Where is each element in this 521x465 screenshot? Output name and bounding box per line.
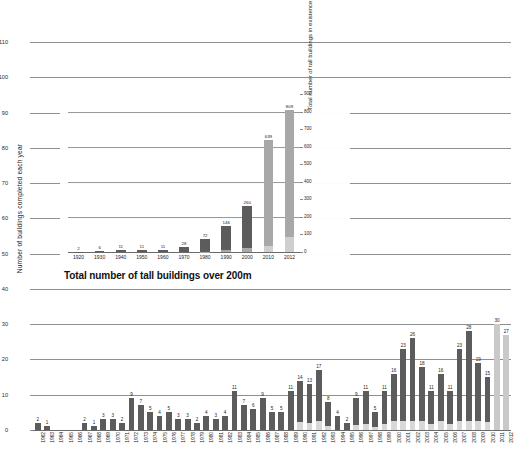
x-axis-tick-label: 2004 — [433, 432, 439, 443]
y-axis-tick-label: 50 — [0, 251, 8, 257]
bar[interactable] — [391, 374, 397, 430]
bar-segment-completed — [147, 412, 153, 430]
bar[interactable] — [241, 405, 247, 430]
inset-bar[interactable] — [95, 251, 105, 252]
bar-value-label: 11 — [429, 385, 434, 390]
main-x-axis-labels: 1962196319641965196619671968196919701971… — [33, 432, 511, 465]
bar-segment-base — [466, 421, 472, 430]
bar[interactable] — [475, 363, 481, 430]
inset-bar-segment-total — [158, 250, 168, 252]
inset-bar[interactable] — [200, 239, 210, 252]
inset-bar[interactable] — [264, 140, 274, 252]
bar[interactable] — [400, 349, 406, 430]
bar-value-label: 11 — [363, 385, 368, 390]
inset-y-axis-tick-mark — [300, 147, 303, 148]
bar[interactable] — [166, 412, 172, 430]
inset-bar-value-label: 11 — [118, 244, 123, 249]
bar-segment-base — [353, 425, 359, 430]
bar-segment-completed — [475, 363, 481, 421]
inset-y-axis-tick-label: 300 — [304, 196, 312, 201]
bar-value-label: 11 — [232, 385, 237, 390]
bar[interactable] — [175, 419, 181, 430]
bar[interactable] — [307, 384, 313, 430]
bar-value-label: 23 — [401, 343, 406, 348]
bar[interactable] — [335, 416, 341, 430]
bar[interactable] — [157, 416, 163, 430]
bar[interactable] — [278, 412, 284, 430]
bar-value-label: 1 — [93, 420, 96, 425]
inset-bar[interactable] — [74, 251, 84, 252]
x-axis-tick-label: 1971 — [124, 432, 130, 443]
bar[interactable] — [466, 331, 472, 430]
bar[interactable] — [503, 335, 509, 430]
bar-value-label: 11 — [382, 385, 387, 390]
bar-segment-base — [297, 422, 303, 430]
bar[interactable] — [438, 374, 444, 430]
inset-bar-segment-total — [179, 247, 189, 252]
bar[interactable] — [269, 412, 275, 430]
bar[interactable] — [35, 423, 41, 430]
bar-segment-completed — [353, 398, 359, 425]
inset-bar[interactable] — [158, 250, 168, 252]
x-axis-tick-label: 1997 — [368, 432, 374, 443]
bar[interactable] — [485, 377, 491, 430]
bar[interactable] — [185, 419, 191, 430]
bar[interactable] — [494, 324, 500, 430]
bar[interactable] — [222, 416, 228, 430]
bar[interactable] — [344, 423, 350, 430]
bar[interactable] — [213, 419, 219, 430]
bar[interactable] — [363, 391, 369, 430]
bar[interactable] — [447, 391, 453, 430]
bar[interactable] — [110, 419, 116, 430]
bar[interactable] — [288, 391, 294, 430]
bar[interactable] — [353, 398, 359, 430]
bar[interactable] — [428, 391, 434, 430]
bar-value-label: 2 — [83, 417, 86, 422]
bar[interactable] — [100, 419, 106, 430]
bar[interactable] — [203, 416, 209, 430]
bar[interactable] — [129, 398, 135, 430]
inset-chart: 0100200300400500600700800900 26111111287… — [60, 88, 350, 288]
bar[interactable] — [260, 398, 266, 430]
bar[interactable] — [138, 405, 144, 430]
bar-segment-completed — [307, 384, 313, 423]
bar-segment-base — [457, 421, 463, 430]
bar[interactable] — [457, 349, 463, 430]
x-axis-tick-label: 1981 — [218, 432, 224, 443]
bar[interactable] — [325, 402, 331, 430]
bar[interactable] — [91, 426, 97, 430]
bar-value-label: 16 — [391, 368, 396, 373]
bar[interactable] — [410, 338, 416, 430]
inset-bar[interactable] — [221, 226, 231, 252]
bar[interactable] — [147, 412, 153, 430]
inset-y-axis-tick-mark — [300, 252, 303, 253]
bar[interactable] — [119, 423, 125, 430]
bar[interactable] — [232, 391, 238, 430]
x-axis-tick-label: 1987 — [274, 432, 280, 443]
x-axis-tick-label: 2011 — [499, 432, 505, 442]
bar-value-label: 17 — [316, 364, 321, 369]
y-axis-tick-label: 80 — [0, 145, 8, 151]
inset-bar[interactable] — [179, 247, 189, 252]
x-axis-tick-label: 1984 — [246, 432, 252, 443]
bar[interactable] — [372, 412, 378, 430]
bar-segment-completed — [222, 416, 228, 430]
inset-bar[interactable] — [116, 250, 126, 252]
bar[interactable] — [316, 370, 322, 430]
bar[interactable] — [44, 426, 50, 430]
inset-x-axis-tick-label: 1980 — [200, 254, 211, 260]
bar-value-label: 4 — [224, 410, 227, 415]
bar[interactable] — [82, 423, 88, 430]
inset-bar[interactable] — [137, 250, 147, 252]
bar[interactable] — [419, 367, 425, 430]
bar-segment-completed — [382, 391, 388, 424]
bar[interactable] — [382, 391, 388, 430]
inset-x-axis-tick-label: 1950 — [136, 254, 147, 260]
inset-bar-value-label: 2 — [77, 246, 79, 251]
bar[interactable] — [297, 381, 303, 430]
bar[interactable] — [250, 409, 256, 430]
inset-bar[interactable] — [285, 110, 295, 252]
bar-segment-completed — [110, 419, 116, 430]
inset-bar[interactable] — [242, 206, 252, 252]
bar[interactable] — [194, 423, 200, 430]
